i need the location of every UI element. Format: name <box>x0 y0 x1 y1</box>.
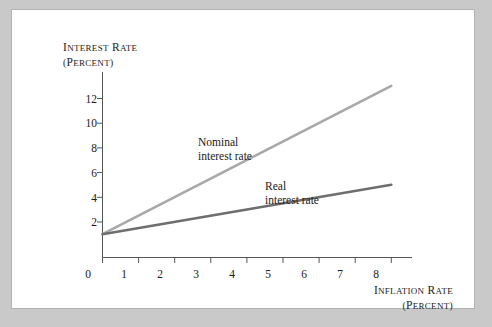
figure-frame: INTEREST RATE (PERCENT) INFLATION RATE (… <box>11 9 475 309</box>
x-tick-label: 2 <box>149 268 171 280</box>
chart-plot-area: INTEREST RATE (PERCENT) INFLATION RATE (… <box>12 10 476 310</box>
y-axis-title-line2: (PERCENT) <box>63 55 137 70</box>
series-label-real-line1: Real <box>265 179 319 193</box>
y-tick-label: 4 <box>75 192 97 204</box>
x-tick-label: 8 <box>365 268 387 280</box>
series-label-nominal: Nominal interest rate <box>198 135 252 163</box>
x-tick-label: 5 <box>257 268 279 280</box>
x-tick-label: 3 <box>185 268 207 280</box>
x-ticks-group <box>103 258 392 264</box>
x-axis-title: INFLATION RATE (PERCENT) <box>228 283 453 313</box>
series-label-real-line2: interest rate <box>265 193 319 207</box>
x-tick-label: 0 <box>77 268 99 280</box>
y-axis-title: INTEREST RATE (PERCENT) <box>63 40 137 70</box>
series-label-nominal-line2: interest rate <box>198 149 252 163</box>
series-line-real <box>103 185 392 234</box>
y-tick-label: 2 <box>75 216 97 228</box>
y-tick-label: 12 <box>75 93 97 105</box>
y-axis-title-line1: INTEREST RATE <box>63 40 137 55</box>
x-axis-title-line2: (PERCENT) <box>228 298 453 313</box>
y-tick-label: 6 <box>75 167 97 179</box>
x-tick-label: 1 <box>113 268 135 280</box>
x-tick-label: 6 <box>293 268 315 280</box>
x-tick-label: 7 <box>329 268 351 280</box>
y-tick-label: 8 <box>75 142 97 154</box>
series-label-nominal-line1: Nominal <box>198 135 252 149</box>
y-tick-label: 10 <box>75 117 97 129</box>
series-label-real: Real interest rate <box>265 179 319 207</box>
x-tick-label: 4 <box>221 268 243 280</box>
x-axis-title-line1: INFLATION RATE <box>228 283 453 298</box>
y-ticks-group <box>97 99 103 223</box>
